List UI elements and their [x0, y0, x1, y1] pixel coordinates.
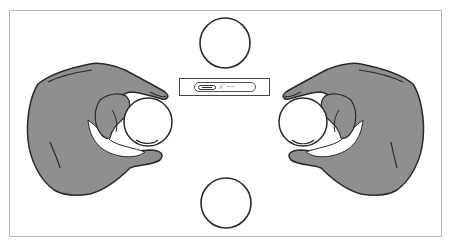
right-ball — [279, 98, 327, 146]
label-badge: ﾊﾞｰｰ — [194, 82, 256, 92]
top-circle — [200, 18, 250, 68]
bottom-circle — [201, 178, 251, 228]
label-plate: ﾊﾞｰｰ — [179, 78, 270, 96]
label-text: ﾊﾞｰｰ — [219, 83, 234, 91]
illustration-scene — [0, 0, 452, 246]
capsule-icon — [198, 85, 216, 90]
left-ball — [124, 98, 172, 146]
